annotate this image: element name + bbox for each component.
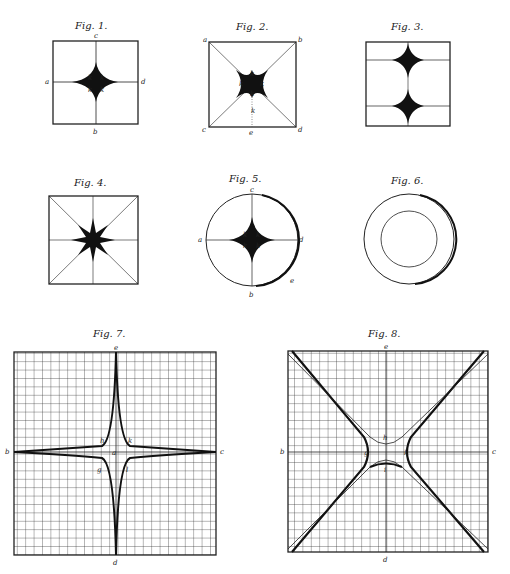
label-k: k <box>128 437 132 445</box>
label-c: c <box>220 448 224 456</box>
label-h: h <box>383 434 388 442</box>
label-k: k <box>100 86 104 94</box>
label-l: l <box>126 466 128 474</box>
label-a: a <box>112 449 116 457</box>
figure-4: Fig. 4. <box>49 177 138 284</box>
fig8-caption: Fig. 8. <box>367 328 400 339</box>
label-c: c <box>202 126 206 134</box>
label-k: k <box>243 231 247 239</box>
figure-7: Fig. 7. e b c d a h k g l <box>5 328 224 567</box>
figure-plate: Fig. 1. c a d b k k k k Fig. 2. a b c d … <box>0 0 510 574</box>
fig1-caption: Fig. 1. <box>74 20 107 31</box>
label-e: e <box>290 277 294 285</box>
label-k: k <box>256 242 260 250</box>
figure-5: Fig. 5. c a d b e k k k k <box>198 173 304 299</box>
star-shape <box>392 89 424 124</box>
label-d: d <box>383 556 388 564</box>
star-shape <box>229 217 275 263</box>
fig5-caption: Fig. 5. <box>228 173 261 184</box>
label-d: d <box>299 236 304 244</box>
label-k: k <box>100 74 104 82</box>
star-shape <box>72 62 118 102</box>
figure-3: Fig. 3. <box>366 21 450 126</box>
label-d: d <box>298 126 303 134</box>
label-e: e <box>249 129 253 137</box>
label-e: e <box>114 344 118 352</box>
label-a: a <box>203 36 207 44</box>
label-g: g <box>364 449 369 457</box>
label-k: k <box>404 449 408 457</box>
label-e: e <box>384 343 388 351</box>
label-b: b <box>298 36 303 44</box>
label-b: b <box>280 448 285 456</box>
label-h: h <box>100 437 105 445</box>
label-b: b <box>5 448 10 456</box>
label-k: k <box>250 90 254 98</box>
fig6-caption: Fig. 6. <box>390 175 423 186</box>
label-k: k <box>88 74 92 82</box>
fig4-caption: Fig. 4. <box>73 177 106 188</box>
label-a: a <box>198 236 202 244</box>
fig7-caption: Fig. 7. <box>92 328 125 339</box>
label-k: k <box>243 242 247 250</box>
label-k: k <box>250 70 254 78</box>
label-c: c <box>492 448 496 456</box>
figure-1: Fig. 1. c a d b k k k k <box>45 20 146 136</box>
star-shape <box>392 43 424 78</box>
fig3-caption: Fig. 3. <box>390 21 423 32</box>
label-k: k <box>88 86 92 94</box>
label-i: i <box>384 466 386 474</box>
label-c: c <box>94 32 98 40</box>
label-k: k <box>239 80 243 88</box>
label-d: d <box>113 559 118 567</box>
label-a: a <box>45 78 49 86</box>
figure-2: Fig. 2. a b c d e k k k k k <box>202 21 303 137</box>
figure-8: Fig. 8. e b c d h i g k <box>280 328 496 564</box>
label-b: b <box>93 128 98 136</box>
figure-6: Fig. 6. <box>364 175 456 284</box>
label-b: b <box>249 291 254 299</box>
label-k: k <box>251 107 255 115</box>
label-d: d <box>141 78 146 86</box>
label-c: c <box>250 186 254 194</box>
fig2-caption: Fig. 2. <box>235 21 268 32</box>
label-g: g <box>97 466 102 474</box>
label-k: k <box>256 231 260 239</box>
label-k: k <box>260 80 264 88</box>
